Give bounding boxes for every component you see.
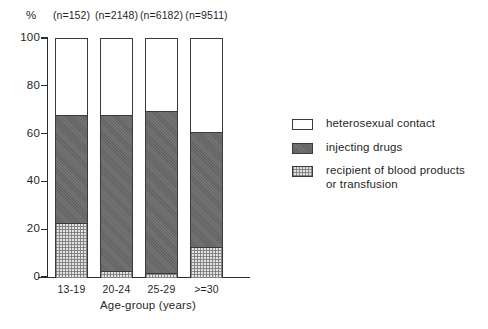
legend-item: heterosexual contact <box>292 117 482 131</box>
y-axis-tick <box>41 276 47 277</box>
bar-segment-heterosexual-contact <box>146 39 177 111</box>
stacked-bar-chart: % 020406080100 (n=152)(n=2148)(n=6182)(n… <box>0 0 488 329</box>
bar-segment-injecting-drugs <box>146 111 177 274</box>
x-axis-title: Age-group (years) <box>48 299 248 311</box>
bar-segment-heterosexual-contact <box>191 39 222 132</box>
bar-segment-heterosexual-contact <box>101 39 132 115</box>
y-axis-tick <box>41 229 47 230</box>
x-axis-tick-label: >=30 <box>177 283 237 295</box>
bar-segment-heterosexual-contact <box>56 39 87 115</box>
bar-segment-recipient-of-blood-products-or-transfusion <box>146 273 177 278</box>
y-axis-tick-label: 40 <box>4 174 40 186</box>
bar-13-19 <box>55 38 88 277</box>
dark-gray-swatch-icon <box>292 143 313 154</box>
y-axis-tick-label-wrap: 100 <box>0 31 40 43</box>
y-axis-line <box>47 37 48 278</box>
legend-item-label: injecting drugs <box>326 141 402 155</box>
group-count-label: (n=9511) <box>173 9 241 21</box>
y-axis-tick <box>41 181 47 182</box>
bar-20-24 <box>100 38 133 277</box>
legend: heterosexual contact injecting drugs rec… <box>292 117 482 201</box>
legend-item-label: heterosexual contact <box>326 117 435 131</box>
y-axis-tick-label-wrap: 60 <box>0 127 40 139</box>
y-axis-tick-label: 20 <box>4 222 40 234</box>
legend-item: recipient of blood products or transfusi… <box>292 164 482 191</box>
bar-segment-injecting-drugs <box>191 132 222 247</box>
y-axis-tick <box>41 133 47 134</box>
y-axis-tick-label: 60 <box>4 127 40 139</box>
white-swatch-icon <box>292 119 313 130</box>
bar-segment-recipient-of-blood-products-or-transfusion <box>191 247 222 278</box>
y-axis-tick-label: 100 <box>4 31 40 43</box>
light-hatched-swatch-icon <box>292 166 313 177</box>
y-axis-tick <box>41 85 47 86</box>
bar-segment-injecting-drugs <box>101 115 132 270</box>
legend-item-label: recipient of blood products or transfusi… <box>326 164 478 191</box>
bar-segment-recipient-of-blood-products-or-transfusion <box>56 223 87 278</box>
y-axis-tick <box>41 37 47 38</box>
bar-segment-recipient-of-blood-products-or-transfusion <box>101 271 132 278</box>
y-axis-unit-label: % <box>26 9 36 21</box>
y-axis-tick-label: 0 <box>4 270 40 282</box>
y-axis-tick-label-wrap: 40 <box>0 174 40 186</box>
y-axis-tick-label-wrap: 20 <box>0 222 40 234</box>
bar-segment-injecting-drugs <box>56 115 87 223</box>
legend-item: injecting drugs <box>292 141 482 155</box>
y-axis-tick-label: 80 <box>4 79 40 91</box>
y-axis-tick-label-wrap: 80 <box>0 79 40 91</box>
bar->=30 <box>190 38 223 277</box>
bar-25-29 <box>145 38 178 277</box>
y-axis-tick-label-wrap: 0 <box>0 270 40 282</box>
